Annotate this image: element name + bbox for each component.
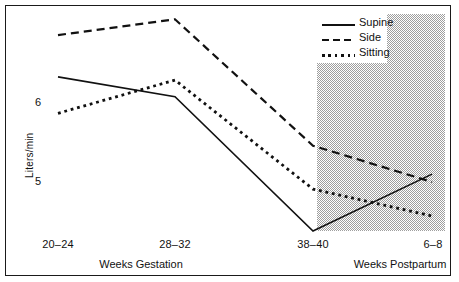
legend-label-side: Side (359, 31, 381, 43)
legend-item-supine: Supine (322, 18, 388, 32)
x-tick-label-28-32: 28–32 (151, 238, 199, 250)
legend-swatch-solid-icon (322, 24, 355, 26)
y-axis-label: Liters/min (24, 133, 35, 178)
legend-item-side: Side (322, 33, 388, 47)
legend-label-sitting: Sitting (359, 46, 390, 58)
legend-swatch-dotted-icon (322, 54, 355, 57)
x-tick-label-20-24: 20–24 (34, 238, 82, 250)
x-tick-label-6-8: 6–8 (409, 238, 457, 250)
x-group-label-postpartum: Weeks Postpartum (335, 258, 459, 270)
legend-swatch-dashed-icon (322, 39, 355, 41)
chart-legend: Supine Side Sitting (317, 14, 387, 63)
legend-label-supine: Supine (359, 16, 393, 28)
y-tick-label-5: 5 (35, 175, 41, 187)
x-tick-label-38-40: 38–40 (289, 238, 337, 250)
y-tick-label-6: 6 (35, 96, 41, 108)
chart-figure: Liters/min 6 5 20–24 28–32 38–40 6–8 Wee… (0, 0, 459, 282)
legend-item-sitting: Sitting (322, 48, 388, 62)
x-group-label-gestation: Weeks Gestation (76, 258, 206, 270)
